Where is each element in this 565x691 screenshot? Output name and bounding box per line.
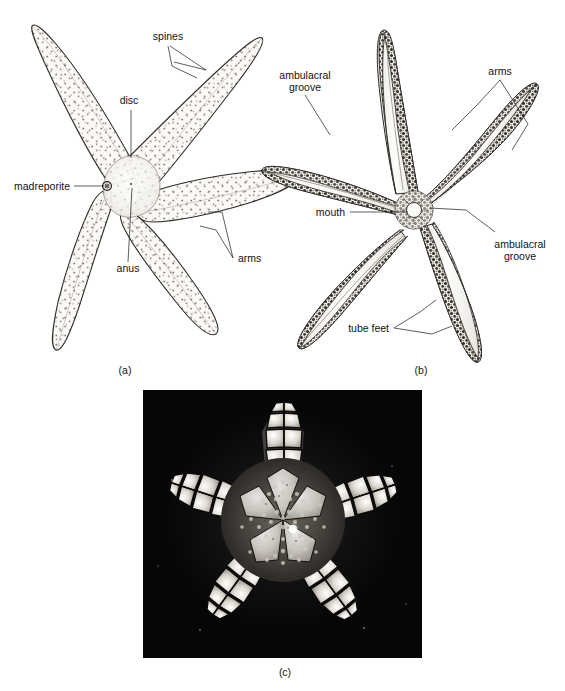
photo-central-disc: [221, 458, 345, 582]
mouth-region: [395, 191, 433, 229]
anus-point: [130, 183, 132, 185]
label-ambulacral-groove-top-line2: groove: [289, 81, 321, 93]
figure-root: spines disc madreporite anus arms (a): [0, 0, 565, 691]
label-disc: disc: [120, 94, 139, 106]
label-ambulacral-groove-right-line1: ambulacral: [494, 238, 545, 250]
label-tube-feet: tube feet: [348, 322, 389, 334]
label-spines: spines: [153, 30, 183, 42]
label-anus: anus: [117, 262, 140, 274]
label-arms-panel-a: arms: [238, 252, 261, 264]
label-ambulacral-groove-top-line1: ambulacral: [279, 69, 330, 81]
caption-panel-a: (a): [119, 364, 132, 376]
caption-panel-b: (b): [415, 364, 428, 376]
label-madreporite: madreporite: [14, 180, 70, 192]
label-mouth: mouth: [316, 206, 345, 218]
panel-c-photograph: (c): [143, 390, 422, 678]
label-arms-panel-b: arms: [488, 65, 511, 77]
sea-star-figure: spines disc madreporite anus arms (a): [0, 0, 565, 691]
caption-panel-c: (c): [279, 666, 291, 678]
label-ambulacral-groove-right-line2: groove: [504, 250, 536, 262]
